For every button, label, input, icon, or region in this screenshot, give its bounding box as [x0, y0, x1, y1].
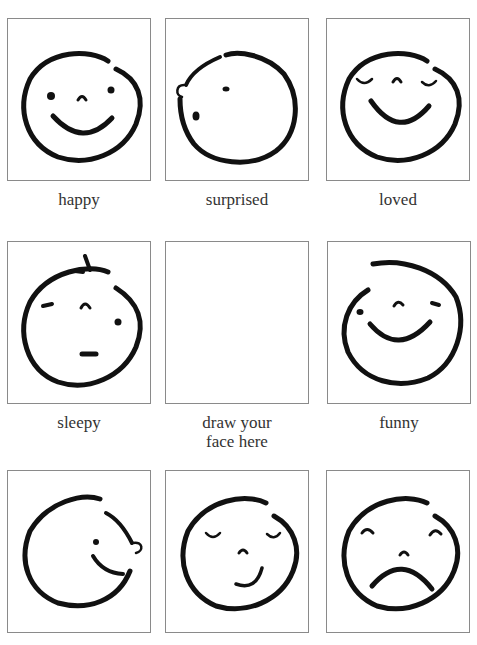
face-card-funny: [327, 241, 471, 404]
label-happy: happy: [0, 190, 164, 209]
label-loved: loved: [313, 190, 477, 209]
label-line-1: draw your: [152, 413, 322, 432]
label-surprised: surprised: [152, 190, 322, 209]
face-card-sad: [326, 470, 470, 633]
face-card-happy: [7, 18, 151, 181]
face-card-surprised: [165, 18, 309, 181]
happy-face-icon: [8, 19, 150, 180]
sleepy-face-icon: [8, 242, 150, 403]
loved-face-icon: [327, 19, 469, 180]
content-face-icon: [166, 471, 308, 632]
face-card-loved: [326, 18, 470, 181]
surprised-face-icon: [166, 19, 308, 180]
face-card-content: [165, 470, 309, 633]
label-draw-your-face: draw your face here: [152, 413, 322, 451]
face-card-sleepy: [7, 241, 151, 404]
side-smile-face-icon: [8, 471, 150, 632]
draw-your-face-box[interactable]: [165, 241, 309, 404]
sad-face-icon: [327, 471, 469, 632]
funny-face-icon: [328, 242, 470, 403]
label-funny: funny: [314, 413, 477, 432]
label-line-2: face here: [152, 432, 322, 451]
face-card-side-smile: [7, 470, 151, 633]
label-sleepy: sleepy: [0, 413, 164, 432]
